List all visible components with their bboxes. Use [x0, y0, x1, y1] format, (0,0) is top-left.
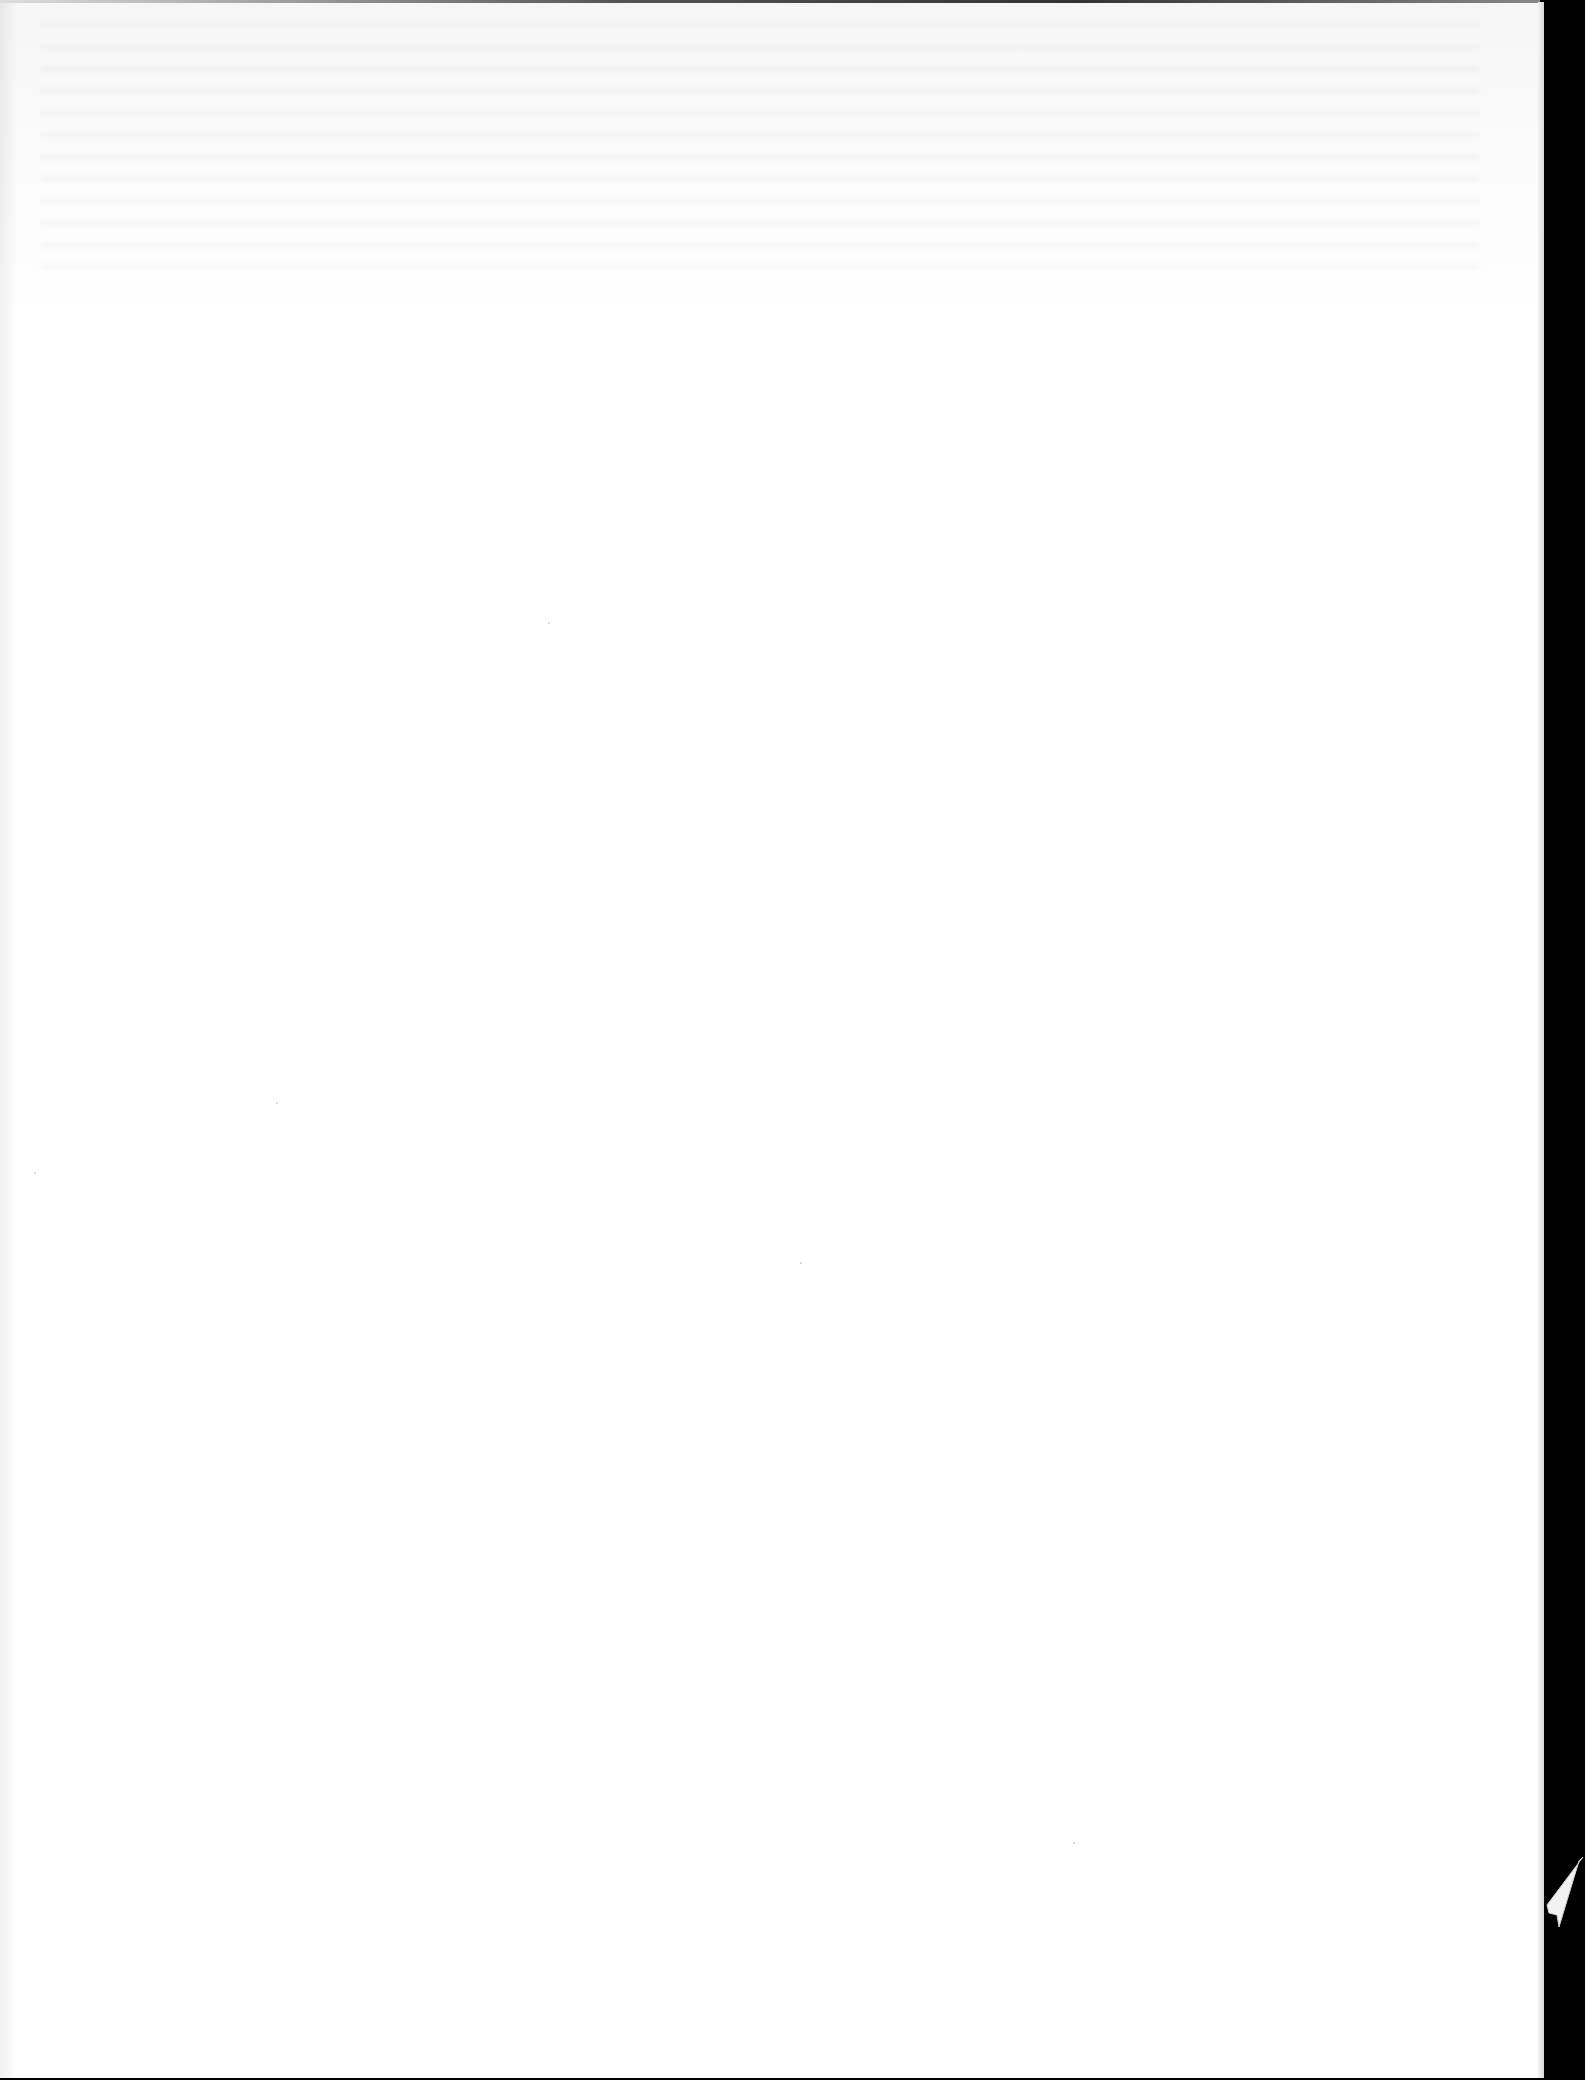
page-top-edge [0, 0, 1540, 3]
show-through-shadow [40, 22, 1480, 282]
blank-scanned-page [0, 2, 1540, 2078]
paper-tear-icon [1545, 1855, 1585, 1935]
page-right-edge [1538, 2, 1544, 2078]
